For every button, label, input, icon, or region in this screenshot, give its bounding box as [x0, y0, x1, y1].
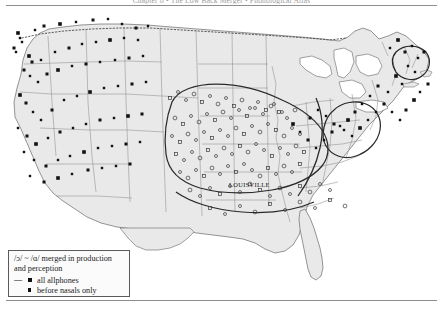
map-marker-all-allphones: [323, 139, 325, 141]
map-marker-all-allphones: [47, 137, 49, 139]
map-marker-all-allphones: [103, 87, 105, 89]
legend-item-all-allphones: — all allphones: [14, 275, 124, 285]
map-marker-all-allphones: [317, 109, 319, 111]
map-marker-all-allphones: [23, 69, 26, 72]
map-marker-all-allphones: [17, 127, 19, 129]
map-marker-all-allphones: [46, 73, 49, 76]
map-legend: /ɔ/ ~ /ɑ/ merged in production and perce…: [8, 250, 130, 297]
map-marker-all-allphones: [291, 122, 295, 126]
map-marker-all-allphones: [399, 119, 401, 121]
legend-label-before-nasals: before nasals only: [35, 286, 97, 295]
map-marker-all-allphones: [13, 47, 16, 50]
map-marker-all-allphones: [361, 103, 363, 105]
map-marker-before-nasals: [314, 207, 317, 210]
map-marker-all-allphones: [309, 117, 312, 120]
map-marker-all-allphones: [375, 111, 377, 113]
map-marker-all-allphones: [139, 141, 141, 143]
map-marker-all-allphones: [45, 165, 48, 168]
map-marker-all-allphones: [95, 41, 97, 43]
map-marker-all-allphones: [129, 163, 132, 166]
map-marker-all-allphones: [32, 111, 34, 113]
legend-swatch-filled-square-icon: [24, 278, 35, 282]
map-marker-all-allphones: [123, 37, 125, 39]
legend-dash-icon: —: [14, 276, 24, 284]
legend-label-all-allphones: all allphones: [35, 276, 79, 285]
map-marker-all-allphones: [88, 90, 92, 94]
map-marker-all-allphones: [113, 117, 115, 119]
map-marker-all-allphones: [54, 51, 56, 53]
running-head: Chapter 8 • The Low Back Merger • Phonol…: [0, 0, 443, 4]
map-marker-all-allphones: [128, 57, 131, 60]
map-marker-all-allphones: [367, 119, 369, 121]
map-marker-all-allphones: [43, 181, 46, 184]
map-marker-all-allphones: [411, 45, 413, 47]
map-marker-all-allphones: [71, 65, 73, 67]
map-marker-all-allphones: [23, 151, 25, 153]
map-marker-all-allphones: [76, 95, 78, 97]
map-marker-all-allphones: [401, 83, 403, 85]
map-marker-all-allphones: [126, 114, 130, 118]
map-marker-all-allphones: [69, 155, 71, 157]
legend-items: — all allphones before nasals only: [14, 275, 124, 295]
map-marker-all-allphones: [111, 145, 113, 147]
map-marker-all-allphones: [19, 37, 21, 39]
map-marker-all-allphones: [117, 85, 119, 87]
map-marker-all-allphones: [315, 147, 317, 149]
map-marker-all-allphones: [331, 131, 334, 134]
map-marker-all-allphones: [412, 98, 416, 102]
bottom-rule: [6, 300, 437, 301]
map-marker-before-nasals: [329, 189, 332, 192]
map-marker-all-allphones: [26, 135, 29, 138]
legend-title-line-2: and perception: [14, 264, 124, 274]
map-marker-all-allphones: [405, 109, 408, 112]
map-marker-all-allphones: [75, 21, 77, 23]
map-marker-all-allphones: [125, 143, 128, 146]
map-marker-all-allphones: [58, 22, 62, 26]
map-marker-all-allphones: [369, 95, 371, 97]
map-marker-all-allphones: [325, 115, 327, 117]
map-marker-all-allphones: [27, 54, 31, 58]
map-marker-all-allphones: [51, 109, 54, 112]
map-marker-all-allphones: [85, 63, 88, 66]
map-marker-all-allphones: [33, 159, 35, 161]
legend-title: /ɔ/ ~ /ɑ/ merged in production and perce…: [14, 254, 124, 274]
map-marker-all-allphones: [107, 18, 109, 20]
map-marker-all-allphones: [29, 75, 31, 77]
map-marker-all-allphones: [391, 111, 393, 113]
map-marker-all-allphones: [383, 103, 386, 106]
map-marker-all-allphones: [351, 135, 353, 137]
map-marker-all-allphones: [29, 175, 31, 177]
map-marker-all-allphones: [15, 51, 17, 53]
map-marker-all-allphones: [31, 61, 34, 64]
page-root: Chapter 8 • The Low Back Merger • Phonol…: [0, 0, 443, 311]
map-marker-all-allphones: [147, 25, 149, 27]
map-marker-all-allphones: [43, 25, 46, 28]
map-marker-all-allphones: [101, 167, 103, 169]
map-marker-all-allphones: [99, 119, 102, 122]
map-marker-before-nasals: [343, 204, 347, 208]
map-marker-all-allphones: [121, 23, 123, 25]
map-marker-all-allphones: [417, 57, 419, 59]
city-label-louisville: LOUISVILLE: [229, 181, 270, 188]
map-marker-all-allphones: [99, 61, 101, 63]
map-marker-all-allphones: [135, 27, 138, 30]
map-marker-all-allphones: [343, 129, 345, 131]
map-marker-all-allphones: [346, 118, 350, 122]
map-marker-all-allphones: [57, 159, 59, 161]
map-marker-all-allphones: [131, 83, 134, 86]
map-marker-all-allphones: [56, 176, 60, 180]
map-marker-all-allphones: [40, 59, 42, 61]
map-marker-all-allphones: [97, 147, 99, 149]
map-marker-all-allphones: [72, 127, 74, 129]
map-marker-all-allphones: [82, 150, 86, 154]
map-marker-all-allphones: [145, 81, 147, 83]
map-marker-all-allphones: [115, 165, 117, 167]
map-marker-all-allphones: [407, 65, 409, 67]
map-marker-all-allphones: [307, 139, 310, 142]
map-marker-all-allphones: [85, 123, 87, 125]
map-marker-all-allphones: [25, 102, 28, 105]
map-marker-all-allphones: [63, 99, 65, 101]
map-marker-all-allphones: [389, 47, 391, 49]
legend-title-line-1: /ɔ/ ~ /ɑ/ merged in production: [14, 254, 124, 264]
map-marker-all-allphones: [108, 38, 112, 42]
